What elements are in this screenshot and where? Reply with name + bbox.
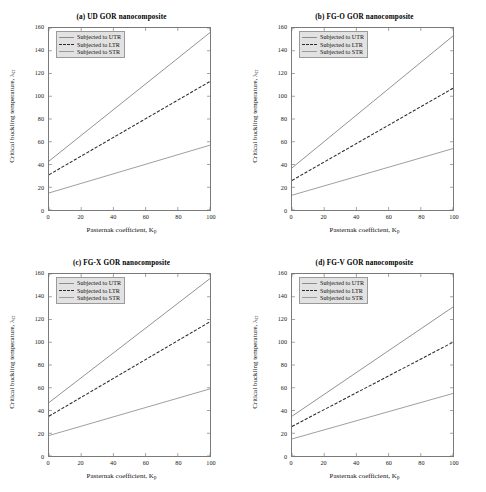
legend-item-3[interactable]: Subjected to STR (302, 294, 364, 301)
legend-label-3: Subjected to STR (77, 49, 120, 55)
y-tick-label: 100 (263, 93, 287, 99)
legend-swatch-2 (302, 44, 317, 45)
legend-label-2: Subjected to LTR (77, 288, 120, 294)
x-tick-label: 40 (101, 214, 125, 220)
legend-item-2[interactable]: Subjected to LTR (302, 41, 364, 48)
legend-item-3[interactable]: Subjected to STR (302, 48, 364, 55)
x-tick-label: 60 (134, 214, 158, 220)
legend-label-2: Subjected to LTR (320, 42, 363, 48)
x-tick-label: 40 (344, 214, 368, 220)
legend-label-1: Subjected to UTR (320, 34, 364, 40)
legend-item-3[interactable]: Subjected to STR (59, 294, 121, 301)
y-tick-label: 140 (20, 293, 44, 299)
y-axis-title: Critical buckling temperature, λcr (251, 31, 259, 201)
y-tick-label: 80 (20, 362, 44, 368)
x-tick-label: 80 (409, 460, 433, 466)
y-tick-label: 120 (20, 70, 44, 76)
y-tick-label: 60 (20, 139, 44, 145)
y-tick-label: 140 (263, 293, 287, 299)
y-tick-label: 120 (263, 316, 287, 322)
y-tick-label: 100 (20, 93, 44, 99)
y-tick-label: 20 (263, 431, 287, 437)
y-tick-label: 120 (263, 70, 287, 76)
x-tick-label: 100 (199, 214, 223, 220)
y-tick-label: 160 (20, 24, 44, 30)
y-tick-label: 160 (263, 24, 287, 30)
series-line-3 (292, 149, 453, 196)
y-tick-label: 160 (263, 270, 287, 276)
legend-swatch-2 (302, 290, 317, 291)
y-axis-title: Critical buckling temperature, λcr (8, 31, 16, 201)
legend-item-3[interactable]: Subjected to STR (59, 48, 121, 55)
legend-swatch-3 (302, 51, 317, 52)
x-tick-label: 80 (409, 214, 433, 220)
legend-item-2[interactable]: Subjected to LTR (59, 287, 121, 294)
x-tick-label: 0 (279, 214, 303, 220)
x-tick-label: 0 (36, 214, 60, 220)
legend-item-1[interactable]: Subjected to UTR (59, 34, 121, 41)
x-tick-label: 100 (199, 460, 223, 466)
x-tick-label: 60 (134, 460, 158, 466)
y-tick-label: 40 (20, 162, 44, 168)
chart-title-1: (a) UD GOR nanocomposite (0, 13, 243, 21)
legend-item-1[interactable]: Subjected to UTR (59, 280, 121, 287)
y-tick-label: 100 (263, 339, 287, 345)
legend-label-3: Subjected to STR (77, 295, 120, 301)
x-tick-label: 100 (442, 460, 466, 466)
x-tick-label: 0 (279, 460, 303, 466)
series-line-2 (49, 81, 210, 174)
legend-item-1[interactable]: Subjected to UTR (302, 280, 364, 287)
figure-grid: (a) UD GOR nanocompositeSubjected to UTR… (0, 0, 486, 492)
legend[interactable]: Subjected to UTRSubjected to LTRSubjecte… (56, 31, 125, 58)
x-axis-title: Pasternak coefficient, Kp (0, 226, 243, 234)
y-tick-label: 0 (20, 208, 44, 214)
y-tick-label: 80 (263, 116, 287, 122)
y-axis-title: Critical buckling temperature, λcr (251, 277, 259, 447)
legend-label-1: Subjected to UTR (77, 34, 121, 40)
y-tick-label: 120 (20, 316, 44, 322)
y-axis-title: Critical buckling temperature, λcr (8, 277, 16, 447)
y-tick-label: 20 (20, 185, 44, 191)
legend-swatch-3 (302, 297, 317, 298)
y-tick-label: 40 (20, 408, 44, 414)
legend-label-3: Subjected to STR (320, 49, 363, 55)
legend-swatch-1 (302, 37, 317, 38)
y-tick-label: 60 (263, 139, 287, 145)
legend[interactable]: Subjected to UTRSubjected to LTRSubjecte… (56, 277, 125, 304)
legend-item-2[interactable]: Subjected to LTR (59, 41, 121, 48)
x-tick-label: 40 (101, 460, 125, 466)
y-tick-label: 40 (263, 162, 287, 168)
legend-item-1[interactable]: Subjected to UTR (302, 34, 364, 41)
legend-label-2: Subjected to LTR (320, 288, 363, 294)
chart-title-2: (b) FG-O GOR nanocomposite (243, 13, 486, 21)
legend-label-2: Subjected to LTR (77, 42, 120, 48)
legend-swatch-1 (59, 37, 74, 38)
series-line-2 (49, 322, 210, 416)
series-line-3 (49, 389, 210, 436)
y-tick-label: 140 (20, 47, 44, 53)
chart-panel-2: (b) FG-O GOR nanocompositeSubjected to U… (243, 0, 486, 246)
legend-label-1: Subjected to UTR (77, 280, 121, 286)
chart-title-3: (c) FG-X GOR nanocomposite (0, 259, 243, 267)
chart-title-4: (d) FG-V GOR nanocomposite (243, 259, 486, 267)
y-tick-label: 20 (263, 185, 287, 191)
legend[interactable]: Subjected to UTRSubjected to LTRSubjecte… (299, 31, 368, 58)
x-tick-label: 100 (442, 214, 466, 220)
legend-item-2[interactable]: Subjected to LTR (302, 287, 364, 294)
y-tick-label: 80 (263, 362, 287, 368)
legend[interactable]: Subjected to UTRSubjected to LTRSubjecte… (299, 277, 368, 304)
chart-panel-4: (d) FG-V GOR nanocompositeSubjected to U… (243, 246, 486, 492)
legend-swatch-3 (59, 51, 74, 52)
legend-swatch-1 (59, 283, 74, 284)
x-axis-title: Pasternak coefficient, Kp (243, 472, 486, 480)
y-tick-label: 100 (20, 339, 44, 345)
series-line-2 (292, 342, 453, 426)
y-tick-label: 0 (20, 454, 44, 460)
y-tick-label: 0 (263, 208, 287, 214)
x-tick-label: 60 (377, 214, 401, 220)
series-line-3 (49, 145, 210, 193)
x-tick-label: 20 (69, 460, 93, 466)
x-tick-label: 20 (69, 214, 93, 220)
x-tick-label: 60 (377, 460, 401, 466)
x-tick-label: 80 (166, 460, 190, 466)
